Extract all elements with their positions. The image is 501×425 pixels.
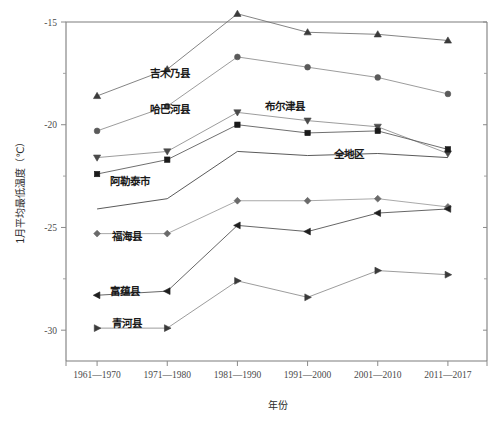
marker-diamond	[374, 195, 381, 202]
series-polyline	[97, 271, 448, 329]
marker-triangle-up	[374, 31, 381, 37]
series-label-青河县: 青河县	[112, 317, 143, 329]
series-label-福海县: 福海县	[111, 230, 143, 242]
y-tick-label: -15	[44, 18, 57, 28]
series-3	[94, 122, 450, 177]
marker-triangle-right	[305, 294, 312, 301]
series-label-布尔津县: 布尔津县	[265, 100, 306, 112]
marker-square	[235, 122, 240, 127]
series-polyline	[97, 209, 448, 295]
series-group	[93, 10, 451, 331]
marker-square	[305, 130, 310, 135]
series-polyline	[97, 125, 448, 174]
marker-triangle-right	[445, 271, 452, 278]
series-6	[93, 206, 450, 299]
marker-circle	[94, 128, 100, 134]
marker-triangle-right	[94, 325, 101, 332]
x-tick-label: 1961—1970	[73, 370, 121, 380]
marker-circle	[235, 54, 241, 60]
axis-frame	[66, 22, 487, 361]
x-axis-title: 年份	[268, 399, 288, 411]
marker-triangle-left	[163, 288, 170, 295]
y-tick-label: -20	[44, 120, 57, 130]
marker-square	[94, 171, 99, 176]
marker-triangle-up	[93, 92, 100, 98]
series-label-全地区: 全地区	[333, 148, 365, 160]
y-tick-label: -25	[44, 223, 57, 233]
marker-diamond	[234, 197, 241, 204]
x-tick-label: 1971—1980	[144, 370, 192, 380]
marker-square	[375, 128, 380, 133]
x-tick-label: 2011—2017	[424, 370, 471, 380]
series-7	[94, 267, 451, 331]
marker-triangle-right	[235, 277, 242, 284]
series-label-阿勒泰市: 阿勒泰市	[110, 175, 151, 187]
marker-triangle-left	[93, 292, 100, 299]
series-label-富蕴县: 富蕴县	[110, 285, 141, 297]
chart-figure: -15-20-25-301961—19701971—19801981—19901…	[0, 0, 501, 425]
marker-diamond	[164, 230, 171, 237]
marker-square	[165, 157, 170, 162]
tick-label-group: -15-20-25-301961—19701971—19801981—19901…	[44, 18, 471, 381]
series-label-吉木乃县: 吉木乃县	[150, 67, 191, 79]
y-axis-title: 1月平均最低温度（℃）	[14, 137, 26, 244]
marker-triangle-up	[234, 10, 241, 16]
series-polyline	[97, 14, 448, 96]
marker-square	[445, 147, 450, 152]
x-tick-label: 1991—2000	[284, 370, 332, 380]
marker-triangle-left	[304, 228, 311, 235]
y-tick-label: -30	[44, 326, 57, 336]
marker-triangle-down	[93, 155, 100, 161]
marker-circle	[375, 75, 381, 81]
series-0	[93, 10, 451, 98]
series-label-哈巴河县: 哈巴河县	[150, 103, 191, 115]
marker-triangle-left	[374, 210, 381, 217]
series-polyline	[97, 112, 448, 157]
marker-circle	[305, 64, 311, 70]
marker-diamond	[94, 230, 101, 237]
marker-triangle-right	[375, 267, 382, 274]
marker-diamond	[304, 197, 311, 204]
axis-group	[61, 22, 487, 366]
line-chart-canvas: -15-20-25-301961—19701971—19801981—19901…	[0, 0, 501, 425]
x-tick-label: 2001—2010	[354, 370, 402, 380]
series-1	[94, 54, 451, 134]
x-tick-label: 1981—1990	[214, 370, 262, 380]
marker-circle	[445, 91, 451, 97]
